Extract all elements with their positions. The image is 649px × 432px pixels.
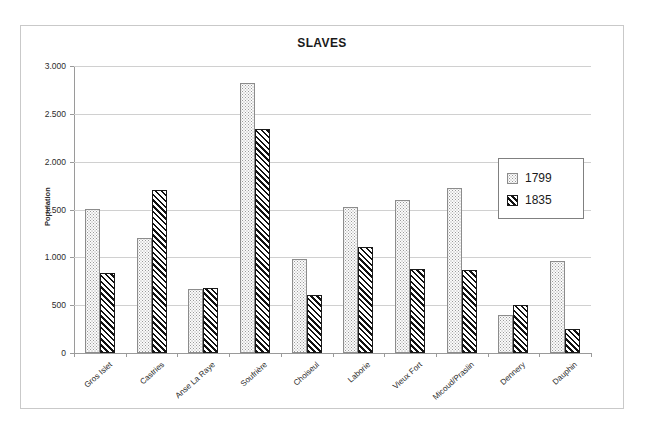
- bar-group: [333, 66, 385, 353]
- bar-1799[interactable]: [240, 83, 255, 353]
- x-axis-tick-label-text: Dauphin: [551, 360, 579, 387]
- y-axis-tick-label: 3.000: [45, 61, 66, 71]
- bar-1799[interactable]: [292, 259, 307, 353]
- bar-1799[interactable]: [447, 188, 462, 354]
- bar-1799[interactable]: [550, 261, 565, 353]
- legend-label-1835: 1835: [525, 193, 552, 207]
- y-axis-tick-label: 500: [52, 300, 66, 310]
- legend-label-1799: 1799: [525, 171, 552, 185]
- bar-1835[interactable]: [462, 270, 477, 353]
- bar-1835[interactable]: [565, 329, 580, 353]
- x-axis-tick-label-text: Vieux Fort: [391, 360, 424, 391]
- bar-1799[interactable]: [343, 207, 358, 353]
- bar-1835[interactable]: [255, 129, 270, 353]
- x-axis-tick-label-text: Gros Islet: [82, 360, 113, 390]
- x-axis-tick-label-text: Choiseul: [291, 360, 320, 388]
- y-axis-tick-label: 2.500: [45, 109, 66, 119]
- x-axis-tick-label-text: Castries: [138, 360, 166, 386]
- bar-group: [436, 66, 488, 353]
- bar-1835[interactable]: [100, 273, 115, 353]
- y-axis-tick-label: 0: [61, 348, 66, 358]
- y-axis-tick-label: 1.000: [45, 252, 66, 262]
- bar-1835[interactable]: [307, 295, 322, 353]
- x-axis-tick-label-text: Laborie: [347, 360, 373, 385]
- bar-1835[interactable]: [203, 288, 218, 353]
- x-axis-tick-label-text: Anse La Raye: [174, 360, 217, 400]
- legend-item-1835[interactable]: 1835: [507, 189, 583, 211]
- bar-1799[interactable]: [137, 238, 152, 353]
- y-axis-tick-label: 2.000: [45, 157, 66, 167]
- bar-group: [281, 66, 333, 353]
- bar-group: [126, 66, 178, 353]
- bar-group: [177, 66, 229, 353]
- bar-1799[interactable]: [395, 200, 410, 353]
- x-axis-tick-label-text: Dennery: [499, 360, 528, 387]
- y-axis-tick-label: 1.500: [45, 205, 66, 215]
- chart-title: SLAVES: [21, 36, 623, 50]
- chart-legend: 17991835: [498, 158, 584, 219]
- x-axis-tick: [74, 353, 75, 357]
- bar-1835[interactable]: [358, 247, 373, 353]
- bar-1835[interactable]: [410, 269, 425, 353]
- bar-1799[interactable]: [85, 209, 100, 353]
- bar-group: [74, 66, 126, 353]
- bar-group: [229, 66, 281, 353]
- x-axis-tick-label-text: Micoud/Praslin: [431, 360, 476, 402]
- bar-group: [384, 66, 436, 353]
- bar-1835[interactable]: [152, 190, 167, 353]
- x-axis-tick-label-text: Soufrière: [239, 360, 269, 388]
- legend-swatch-1835: [507, 195, 518, 206]
- legend-item-1799[interactable]: 1799: [507, 167, 583, 189]
- bar-1835[interactable]: [513, 305, 528, 353]
- bar-1799[interactable]: [188, 289, 203, 353]
- chart-frame: SLAVES Population 3.0002.5002.0001.5001.…: [20, 25, 624, 409]
- legend-swatch-1799: [507, 173, 518, 184]
